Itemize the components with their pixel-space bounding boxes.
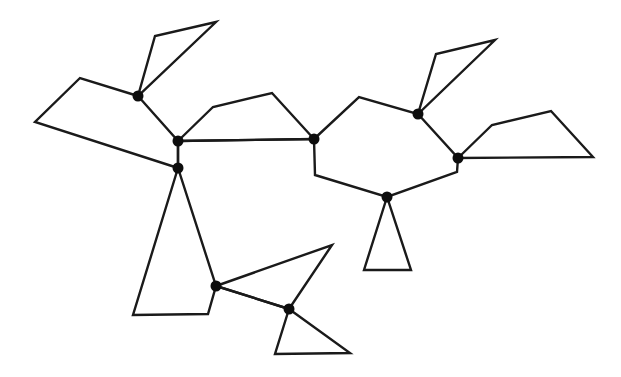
polygon-graph-diagram bbox=[0, 0, 621, 377]
bottom-triangle bbox=[275, 309, 350, 354]
node-B bbox=[173, 136, 184, 147]
top-right-kite bbox=[418, 40, 495, 114]
node-I bbox=[284, 304, 295, 315]
edges-layer bbox=[178, 139, 314, 309]
right-quad bbox=[458, 111, 593, 158]
bottom-right-triangle bbox=[364, 197, 411, 270]
edge-B-D bbox=[178, 139, 314, 141]
diagram-canvas bbox=[0, 0, 621, 377]
edge-H-I bbox=[216, 286, 289, 309]
top-left-kite bbox=[138, 22, 216, 96]
nodes-layer bbox=[133, 91, 464, 315]
node-F bbox=[453, 153, 464, 164]
left-quad bbox=[35, 78, 178, 168]
polygons-layer bbox=[35, 22, 593, 354]
node-G bbox=[382, 192, 393, 203]
bottom-middle-triangle bbox=[216, 245, 332, 309]
middle-pentagon bbox=[178, 93, 314, 141]
right-hexagon bbox=[314, 97, 458, 197]
bottom-left-quad bbox=[133, 168, 216, 315]
node-D bbox=[309, 134, 320, 145]
node-C bbox=[173, 163, 184, 174]
node-E bbox=[413, 109, 424, 120]
node-H bbox=[211, 281, 222, 292]
node-A bbox=[133, 91, 144, 102]
